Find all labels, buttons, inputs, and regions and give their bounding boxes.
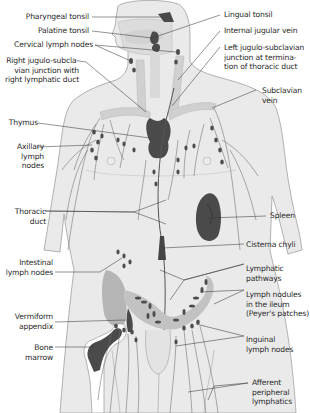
label-left-jugulo-subclavian-junction: Left jugulo-subclavian junction at termi… <box>224 43 304 72</box>
label-bone-marrow: Bone marrow <box>25 343 53 362</box>
label-lymph-nodules-ileum: Lymph nodules in the ileum (Peyer's patc… <box>246 290 309 319</box>
label-pharyngeal-tonsil: Pharyngeal tonsil <box>26 12 89 22</box>
label-cisterna-chyli: Cisterna chyli <box>246 240 296 250</box>
label-inguinal-lymph-nodes: Inguinal lymph nodes <box>246 335 293 354</box>
label-thoracic-duct: Thoracic duct <box>15 207 46 226</box>
label-cervical-lymph-nodes: Cervical lymph nodes <box>14 40 93 50</box>
label-vermiform-appendix: Vermiform appendix <box>15 312 53 331</box>
label-axillary-lymph-nodes: Axillary lymph nodes <box>17 142 44 171</box>
label-spleen: Spleen <box>270 211 295 221</box>
label-right-jugulo-subclavian-junction: Right jugulo-subcla- vian junction with … <box>5 56 79 85</box>
lymphatic-system-diagram: Pharyngeal tonsil Palatine tonsil Cervic… <box>0 0 310 413</box>
label-palatine-tonsil: Palatine tonsil <box>38 26 89 36</box>
label-thymus: Thymus <box>9 118 38 128</box>
label-intestinal-lymph-nodes: Intestinal lymph nodes <box>6 258 53 277</box>
label-subclavian-vein: Subclavian vein <box>262 86 302 105</box>
label-lymphatic-pathways: Lymphatic pathways <box>246 264 284 283</box>
label-afferent-peripheral-lymphatics: Afferent peripheral lymphatics <box>252 378 292 407</box>
label-lingual-tonsil: Lingual tonsil <box>224 10 272 20</box>
label-internal-jugular-vein: Internal jugular vein <box>224 26 297 36</box>
